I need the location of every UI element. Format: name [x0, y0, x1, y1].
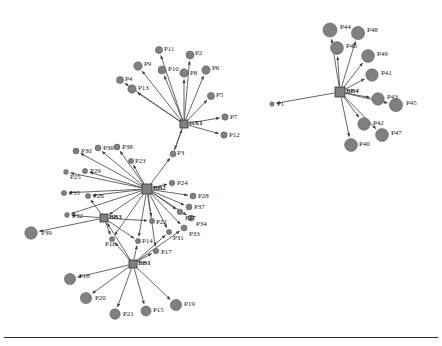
graph-node[interactable] [141, 306, 151, 316]
graph-edge [164, 76, 182, 120]
node-label-p21: P21 [123, 311, 134, 318]
node-label-p11: P11 [164, 46, 174, 53]
node-label-p36: P36 [103, 145, 114, 152]
node-label-p19: P19 [184, 301, 195, 308]
node-label-p7: P7 [230, 114, 237, 121]
node-label-p44: P44 [340, 24, 351, 31]
graph-node[interactable] [73, 148, 79, 154]
node-label-p13: P13 [138, 85, 149, 92]
graph-hub-node[interactable] [335, 87, 345, 97]
graph-node[interactable] [221, 132, 227, 138]
node-label-p35: P35 [69, 190, 80, 197]
node-label-p6: P6 [212, 65, 219, 72]
graph-node[interactable] [61, 190, 66, 195]
graph-node[interactable] [80, 292, 91, 303]
node-label-p29: P29 [90, 168, 101, 175]
graph-node[interactable] [82, 168, 87, 173]
graph-node[interactable] [166, 229, 171, 234]
graph-node[interactable] [351, 26, 364, 39]
graph-node[interactable] [64, 273, 75, 284]
graph-node[interactable] [116, 76, 123, 83]
graph-node[interactable] [65, 213, 70, 218]
graph-hub-node[interactable] [100, 214, 108, 222]
hub-label-bb4: BB4 [346, 88, 359, 95]
graph-edge [276, 93, 334, 103]
graph-node[interactable] [85, 193, 90, 198]
node-label-p18: P18 [79, 273, 90, 280]
graph-node[interactable] [222, 114, 228, 120]
graph-node[interactable] [128, 158, 133, 163]
graph-hub-node[interactable] [142, 184, 152, 194]
graph-node[interactable] [362, 50, 375, 63]
graph-node[interactable] [345, 139, 358, 152]
graph-node[interactable] [128, 85, 136, 93]
graph-node[interactable] [376, 129, 389, 142]
graph-node[interactable] [158, 66, 166, 74]
graph-node[interactable] [177, 209, 183, 215]
graph-node[interactable] [114, 144, 120, 150]
graph-node[interactable] [180, 69, 188, 77]
graph-node[interactable] [202, 66, 210, 74]
node-label-p34: P34 [196, 221, 207, 228]
graph-node[interactable] [135, 238, 140, 243]
bottom-divider [4, 337, 438, 338]
graph-node[interactable] [64, 170, 69, 175]
graph-node[interactable] [149, 218, 154, 223]
node-label-p42: P42 [373, 120, 384, 127]
graph-hub-node[interactable] [180, 120, 188, 128]
graph-node[interactable] [190, 193, 196, 199]
graph-node[interactable] [110, 309, 120, 319]
node-label-p17: P17 [161, 249, 172, 256]
graph-node[interactable] [186, 51, 194, 59]
graph-node[interactable] [358, 118, 370, 130]
node-label-p40: P40 [359, 141, 370, 148]
node-label-p16: P16 [105, 241, 116, 248]
graph-node[interactable] [331, 42, 344, 55]
graph-node[interactable] [207, 92, 214, 99]
graph-node[interactable] [186, 204, 192, 210]
node-label-p4: P4 [125, 76, 132, 83]
node-label-p41: P41 [381, 70, 392, 77]
node-label-p43: P43 [387, 94, 398, 101]
graph-node[interactable] [323, 23, 337, 37]
graph-node[interactable] [366, 69, 378, 81]
node-label-p30: P30 [81, 148, 92, 155]
graph-node[interactable] [372, 93, 384, 105]
node-label-p25: P25 [70, 174, 81, 181]
node-label-p20: P20 [95, 295, 106, 302]
graph-edge [174, 130, 182, 151]
graph-canvas [0, 0, 442, 346]
node-label-p47: P47 [391, 130, 402, 137]
node-label-p14: P14 [142, 238, 153, 245]
node-label-p12: P12 [229, 132, 240, 139]
graph-node[interactable] [181, 225, 187, 231]
node-label-p26: P26 [93, 193, 104, 200]
network-graph-figure: P1P2P3P4P5P6P7P8P9P10P11P12P13P14P15P16P… [0, 0, 442, 346]
node-label-p3: P3 [177, 150, 184, 157]
node-label-p37: P37 [194, 204, 205, 211]
node-label-p45: P45 [406, 100, 417, 107]
graph-node[interactable] [270, 102, 274, 106]
graph-edge [187, 100, 207, 121]
graph-hub-node[interactable] [129, 260, 137, 268]
node-label-p32: P32 [72, 213, 83, 220]
graph-node[interactable] [169, 180, 175, 186]
graph-edge [150, 158, 170, 184]
graph-edge [137, 93, 180, 122]
node-label-p46: P46 [346, 43, 357, 50]
graph-edge [142, 71, 181, 120]
graph-node[interactable] [25, 227, 37, 239]
node-label-p48: P48 [367, 27, 378, 34]
node-label-p1: P1 [277, 101, 284, 108]
graph-node[interactable] [134, 62, 142, 70]
node-label-p27: P27 [185, 215, 196, 222]
hub-label-bb2: BB2 [153, 185, 166, 192]
graph-node[interactable] [95, 145, 101, 151]
graph-edge [343, 63, 362, 88]
graph-node[interactable] [153, 248, 159, 254]
graph-node[interactable] [170, 151, 176, 157]
graph-node[interactable] [155, 46, 162, 53]
graph-node[interactable] [170, 299, 181, 310]
node-label-p2: P2 [195, 50, 202, 57]
node-label-p39: P39 [41, 230, 52, 237]
